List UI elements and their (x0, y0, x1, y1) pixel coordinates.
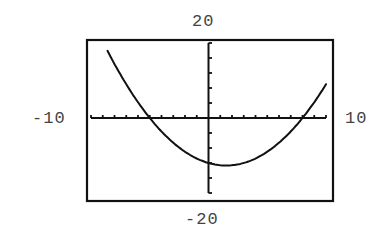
graph-plot (0, 0, 387, 230)
parabola-curve (108, 51, 327, 166)
plot-frame (87, 40, 333, 201)
